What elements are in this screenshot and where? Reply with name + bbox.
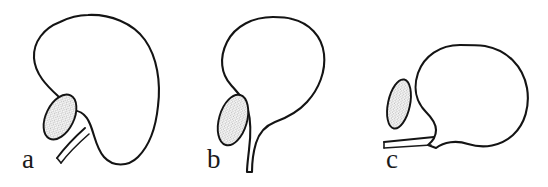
panel-a: a bbox=[0, 0, 190, 187]
figure-root: a b bbox=[0, 0, 548, 187]
panel-label-b: b bbox=[207, 146, 221, 173]
panel-c: c bbox=[368, 0, 548, 187]
duct-upper-line-c bbox=[384, 137, 434, 142]
panel-label-c: c bbox=[386, 146, 398, 173]
duct-tip-a bbox=[57, 158, 61, 163]
organ-outline-c bbox=[416, 45, 528, 148]
organ-outline-a bbox=[34, 15, 159, 165]
panel-label-a: a bbox=[22, 146, 34, 173]
panel-b: b bbox=[185, 0, 375, 187]
gland-c bbox=[383, 77, 415, 130]
